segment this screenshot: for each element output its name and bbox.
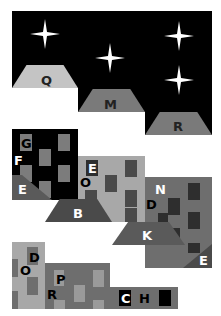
star-icon bbox=[164, 21, 194, 51]
letter-f: F bbox=[14, 154, 23, 167]
letter-p: P bbox=[56, 273, 66, 286]
letter-r-bottom: R bbox=[47, 288, 57, 301]
letter-n: N bbox=[155, 183, 166, 196]
star-icon bbox=[164, 65, 194, 95]
letter-d: D bbox=[146, 198, 157, 211]
roof-label-q: Q bbox=[41, 74, 52, 87]
star-icon bbox=[95, 43, 125, 73]
window bbox=[188, 183, 200, 200]
window bbox=[125, 190, 137, 207]
letter-o: O bbox=[80, 176, 91, 189]
letter-b: B bbox=[73, 207, 83, 220]
letter-h: H bbox=[139, 292, 150, 305]
letter-k: K bbox=[142, 229, 152, 242]
window bbox=[168, 198, 180, 215]
window bbox=[39, 149, 51, 166]
window bbox=[188, 212, 200, 229]
window bbox=[125, 208, 137, 222]
window bbox=[27, 277, 38, 295]
window bbox=[12, 259, 18, 277]
window bbox=[93, 300, 104, 309]
window bbox=[74, 285, 85, 302]
letter-c: C bbox=[121, 292, 131, 305]
window bbox=[105, 175, 117, 192]
letter-e-left: E bbox=[18, 183, 27, 196]
letter-e-corner: E bbox=[199, 254, 208, 267]
window bbox=[93, 270, 104, 287]
window bbox=[12, 291, 18, 309]
letter-g: G bbox=[21, 137, 32, 150]
star-icon bbox=[30, 19, 60, 49]
window bbox=[58, 134, 70, 151]
letter-o-bottom: O bbox=[20, 264, 31, 277]
letter-e: E bbox=[88, 162, 97, 175]
window bbox=[58, 165, 70, 182]
roof-label-r: R bbox=[173, 120, 183, 133]
roof-label-m: M bbox=[104, 98, 117, 111]
window bbox=[159, 290, 171, 306]
window bbox=[125, 160, 137, 177]
